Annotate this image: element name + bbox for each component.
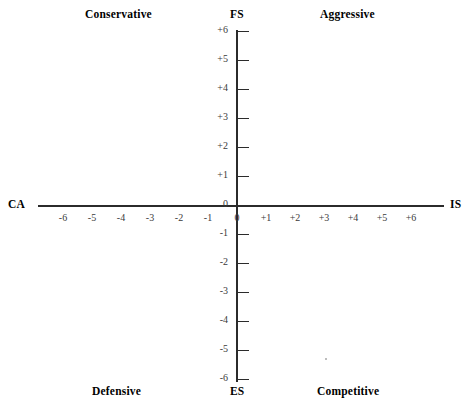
x-axis-tick-label: +2 (280, 212, 310, 223)
x-axis-tick-label: +1 (251, 212, 281, 223)
axis-label-is: IS (450, 198, 461, 210)
x-axis-tick-label: -2 (164, 212, 194, 223)
y-axis-tick-label: +5 (198, 53, 228, 64)
quadrant-label-conservative: Conservative (85, 8, 152, 20)
y-axis-tick-label: -3 (198, 285, 228, 296)
y-axis-tick (238, 31, 249, 32)
y-axis-tick-label: -6 (198, 372, 228, 383)
x-axis-tick-label: -1 (193, 212, 223, 223)
y-axis-tick (238, 379, 249, 380)
x-axis-tick-label: +6 (396, 212, 426, 223)
horizontal-axis-line (38, 205, 444, 207)
quadrant-label-competitive: Competitive (317, 385, 379, 397)
x-axis-tick-label: -6 (48, 212, 78, 223)
quadrant-label-aggressive: Aggressive (320, 8, 375, 20)
y-axis-tick (238, 176, 249, 177)
y-axis-tick-label: +4 (198, 82, 228, 93)
y-axis-tick-label: 0 (198, 198, 228, 209)
x-axis-tick-label: +4 (338, 212, 368, 223)
axis-label-ca: CA (8, 198, 25, 210)
y-axis-tick-label: +1 (198, 169, 228, 180)
x-axis-tick-label: +5 (367, 212, 397, 223)
y-axis-tick (238, 234, 249, 235)
y-axis-tick (238, 118, 249, 119)
quadrant-label-defensive: Defensive (92, 385, 141, 397)
y-axis-tick-label: -4 (198, 314, 228, 325)
y-axis-tick (238, 60, 249, 61)
y-axis-tick-label: +6 (198, 24, 228, 35)
axis-label-es: ES (230, 385, 244, 397)
x-axis-tick-label: -5 (77, 212, 107, 223)
y-axis-tick-label: -5 (198, 343, 228, 354)
x-axis-tick-label: -3 (135, 212, 165, 223)
y-axis-tick-label: +3 (198, 111, 228, 122)
y-axis-tick-label: -1 (198, 227, 228, 238)
x-axis-tick-label: 0 (222, 212, 252, 223)
axis-label-fs: FS (230, 8, 244, 20)
x-axis-tick-label: -4 (106, 212, 136, 223)
y-axis-tick-label: +2 (198, 140, 228, 151)
space-matrix-chart: Conservative Aggressive Defensive Compet… (0, 0, 471, 401)
x-axis-tick-label: +3 (309, 212, 339, 223)
y-axis-tick (238, 321, 249, 322)
y-axis-tick (238, 292, 249, 293)
y-axis-tick (238, 263, 249, 264)
y-axis-tick-label: -2 (198, 256, 228, 267)
y-axis-tick (238, 89, 249, 90)
scan-artifact-speck (325, 358, 327, 360)
y-axis-tick (238, 147, 249, 148)
y-axis-tick (238, 350, 249, 351)
